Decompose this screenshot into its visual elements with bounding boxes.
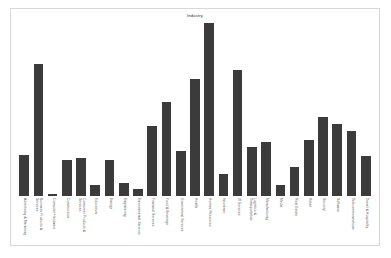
x-axis-tick-labels: Advertising & MarketingBusiness Products… bbox=[17, 197, 373, 247]
bar[interactable] bbox=[105, 160, 115, 196]
bar[interactable] bbox=[190, 79, 200, 196]
bar[interactable] bbox=[204, 23, 214, 196]
bar[interactable] bbox=[233, 70, 243, 196]
bar-slot bbox=[273, 23, 287, 196]
bar-slot bbox=[330, 23, 344, 196]
x-tick-label-line: Telecommunications bbox=[350, 198, 354, 230]
bar-slot bbox=[344, 23, 358, 196]
bar[interactable] bbox=[347, 131, 357, 196]
bar[interactable] bbox=[76, 158, 86, 196]
bar[interactable] bbox=[162, 102, 172, 196]
x-tick-label-line: Environmental Services bbox=[137, 198, 141, 235]
bar-slot bbox=[102, 23, 116, 196]
tick-label-slot: Food & Beverage bbox=[159, 197, 173, 247]
tick-label-slot: Government Services bbox=[174, 197, 188, 247]
tick-label-slot: Retail bbox=[302, 197, 316, 247]
x-tick-label: Human Resources bbox=[207, 198, 211, 227]
x-tick-label-line: Health bbox=[194, 198, 198, 208]
tick-label-slot: Human Resources bbox=[202, 197, 216, 247]
x-tick-label-line: Consumer Products & bbox=[82, 198, 86, 232]
x-tick-label: Software bbox=[335, 198, 339, 212]
bar-slot bbox=[259, 23, 273, 196]
x-tick-label-line: IT Services bbox=[236, 198, 240, 216]
tick-label-slot: Consumer Products &Services bbox=[74, 197, 88, 247]
tick-label-slot: Media bbox=[273, 197, 287, 247]
bar[interactable] bbox=[290, 167, 300, 196]
x-tick-label-line: Insurance bbox=[222, 198, 226, 213]
tick-label-slot: Logistics &Transportation bbox=[245, 197, 259, 247]
tick-label-slot: Construction bbox=[60, 197, 74, 247]
tick-label-slot: Education bbox=[88, 197, 102, 247]
x-tick-label-line: Software bbox=[336, 198, 340, 212]
bar-slot bbox=[159, 23, 173, 196]
bar[interactable] bbox=[90, 185, 100, 196]
tick-label-slot: Environmental Services bbox=[131, 197, 145, 247]
bar[interactable] bbox=[119, 183, 129, 196]
tick-label-slot: Health bbox=[188, 197, 202, 247]
x-tick-label-line: Human Resources bbox=[208, 198, 212, 227]
x-tick-label-line: Financial Services bbox=[151, 198, 155, 227]
tick-label-slot: Business Products &Services bbox=[31, 197, 45, 247]
bar-slot bbox=[88, 23, 102, 196]
bar-slot bbox=[31, 23, 45, 196]
x-tick-label-line: Security bbox=[322, 198, 326, 211]
x-tick-label: Education bbox=[93, 198, 97, 214]
tick-label-slot: Engineering bbox=[117, 197, 131, 247]
x-tick-label: Consumer Products &Services bbox=[77, 198, 84, 232]
bar-slot bbox=[231, 23, 245, 196]
plot-area bbox=[17, 23, 373, 196]
bar[interactable] bbox=[276, 185, 286, 196]
bar-slot bbox=[302, 23, 316, 196]
bar[interactable] bbox=[261, 142, 271, 196]
tick-label-slot: Advertising & Marketing bbox=[17, 197, 31, 247]
chart-title: Industry bbox=[11, 13, 379, 19]
chart-screenshot: Industry Advertising & MarketingBusiness… bbox=[0, 0, 391, 258]
x-tick-label: Telecommunications bbox=[350, 198, 354, 230]
bar[interactable] bbox=[19, 155, 29, 196]
x-tick-label-line: Government Services bbox=[179, 198, 183, 232]
bar[interactable] bbox=[361, 156, 371, 196]
bar[interactable] bbox=[304, 140, 314, 196]
tick-label-slot: Software bbox=[330, 197, 344, 247]
bar[interactable] bbox=[219, 174, 229, 196]
tick-label-slot: Security bbox=[316, 197, 330, 247]
x-tick-label-line: Advertising & Marketing bbox=[23, 198, 27, 235]
tick-label-slot: Manufacturing bbox=[259, 197, 273, 247]
bar-slot bbox=[359, 23, 373, 196]
tick-label-slot: Financial Services bbox=[145, 197, 159, 247]
x-tick-label-line: Manufacturing bbox=[265, 198, 269, 220]
x-tick-label-line: Services bbox=[77, 198, 81, 232]
bar[interactable] bbox=[247, 147, 257, 196]
bar[interactable] bbox=[133, 189, 143, 196]
tick-label-slot: IT Services bbox=[231, 197, 245, 247]
x-tick-label: Security bbox=[321, 198, 325, 211]
bar[interactable] bbox=[176, 151, 186, 196]
bar-slot bbox=[287, 23, 301, 196]
bar[interactable] bbox=[318, 117, 328, 196]
x-tick-label-line: Logistics & bbox=[252, 198, 256, 215]
x-tick-label: Financial Services bbox=[150, 198, 154, 227]
tick-label-slot: Telecommunications bbox=[344, 197, 358, 247]
bar[interactable] bbox=[332, 124, 342, 196]
bar-slot bbox=[174, 23, 188, 196]
x-tick-label: Business Products &Services bbox=[35, 198, 42, 230]
bar-slot bbox=[117, 23, 131, 196]
x-tick-label: Media bbox=[279, 198, 283, 207]
x-tick-label: IT Services bbox=[236, 198, 240, 216]
bar-slot bbox=[188, 23, 202, 196]
x-tick-label-line: Travel & Hospitality bbox=[365, 198, 369, 228]
tick-label-slot: Energy bbox=[102, 197, 116, 247]
x-tick-label: Health bbox=[193, 198, 197, 208]
x-tick-label: Computer Hardware bbox=[51, 198, 55, 229]
x-tick-label-line: Transportation bbox=[248, 198, 252, 221]
bottom-cutoff-text bbox=[0, 250, 391, 258]
x-tick-label: Insurance bbox=[222, 198, 226, 213]
bar[interactable] bbox=[48, 194, 58, 196]
bar[interactable] bbox=[34, 64, 44, 196]
x-tick-label-line: Real Estate bbox=[293, 198, 297, 216]
bar[interactable] bbox=[147, 126, 157, 196]
bar[interactable] bbox=[62, 160, 72, 196]
x-tick-label: Construction bbox=[65, 198, 69, 218]
x-tick-label-line: Media bbox=[279, 198, 283, 207]
x-tick-label-line: Energy bbox=[108, 198, 112, 209]
